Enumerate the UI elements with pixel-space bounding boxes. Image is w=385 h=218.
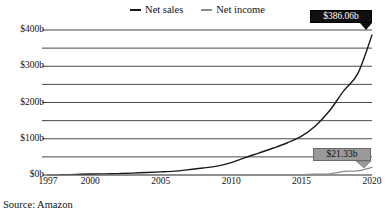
x-axis-tick-label: 1997	[39, 177, 58, 187]
data-label-net-sales: $386.06b	[310, 10, 372, 23]
x-axis-tick-label: 2015	[292, 177, 311, 187]
x-axis-tick-label: 2010	[222, 177, 241, 187]
x-axis-labels: 199720002005201020152020	[0, 0, 385, 218]
chart-container: Net sales Net income $0b$100b$200b$300b$…	[0, 0, 385, 218]
x-axis-tick-label: 2020	[363, 177, 382, 187]
source-caption: Source: Amazon	[3, 200, 73, 211]
data-label-net-income: $21.33b	[313, 148, 371, 161]
x-axis-tick-label: 2000	[81, 177, 100, 187]
x-axis-tick-label: 2005	[151, 177, 170, 187]
